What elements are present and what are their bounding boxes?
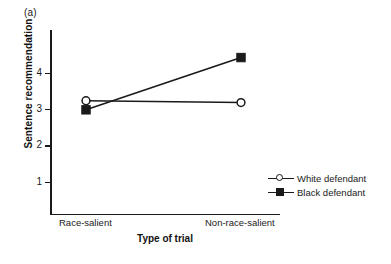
x-tick-label-non-race-salient: Non-race-salient xyxy=(205,217,275,228)
y-tick-mark-1 xyxy=(45,182,51,183)
legend-label-white-defendant: White defendant xyxy=(294,173,366,184)
x-axis-line xyxy=(50,214,280,216)
legend-item-black-defendant[interactable]: Black defendant xyxy=(268,185,366,199)
x-tick-label-race-salient: Race-salient xyxy=(59,217,112,228)
figure-panel-a: (a) 4 3 2 1 Sentence recommendation Race… xyxy=(0,0,391,264)
filled-square-marker-icon xyxy=(268,186,294,198)
y-tick-label-1: 1 xyxy=(28,177,42,187)
data-point-filled-square xyxy=(82,106,90,114)
y-tick-mark-2 xyxy=(45,145,51,146)
data-point-filled-square xyxy=(237,53,245,61)
data-point-open-circle xyxy=(237,99,245,107)
legend-item-white-defendant[interactable]: White defendant xyxy=(268,171,366,185)
y-axis-title: Sentence recommendation xyxy=(23,4,34,164)
y-tick-mark-3 xyxy=(45,109,51,110)
open-circle-marker-icon xyxy=(268,172,294,184)
legend: White defendant Black defendant xyxy=(268,171,366,199)
series-line-black-defendant xyxy=(86,58,241,110)
series-line-white-defendant xyxy=(86,101,241,103)
y-tick-mark-4 xyxy=(45,73,51,74)
y-axis-line xyxy=(50,30,52,215)
legend-label-black-defendant: Black defendant xyxy=(294,187,365,198)
x-axis-title: Type of trial xyxy=(50,233,280,244)
data-point-open-circle xyxy=(82,97,90,105)
